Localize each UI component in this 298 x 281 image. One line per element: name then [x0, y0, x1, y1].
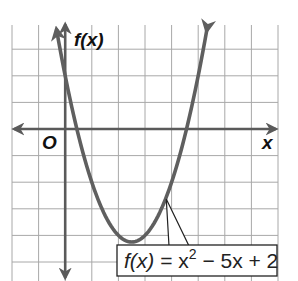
equation-eq: = x [154, 249, 189, 272]
equation-fx: f(x) [124, 249, 154, 272]
equation-exponent: 2 [189, 246, 197, 262]
function-graph: x f(x) O f(x) = x2 − 5x + 2 [0, 0, 298, 281]
x-axis-label: x [261, 132, 274, 153]
annotation-leader [166, 199, 189, 246]
grid [12, 25, 278, 281]
equation-rest: − 5x + 2 [197, 249, 279, 272]
y-axis-label: f(x) [74, 29, 104, 50]
origin-label: O [42, 132, 57, 153]
equation-label: f(x) = x2 − 5x + 2 [124, 246, 278, 272]
parabola-curve [57, 30, 207, 242]
